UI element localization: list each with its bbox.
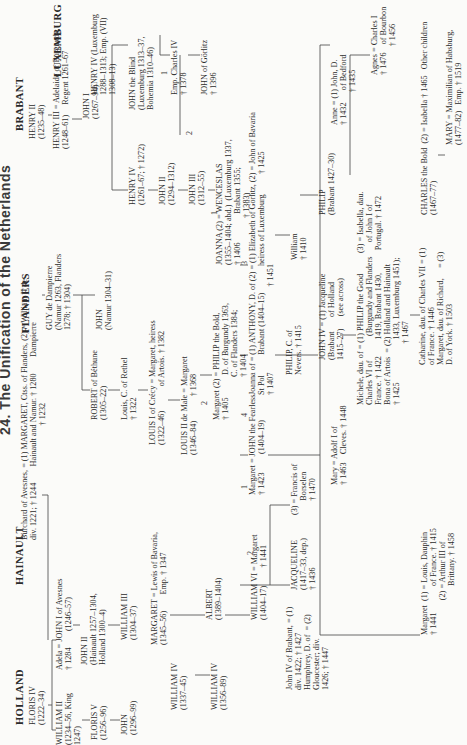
marriage-order-number: 4 — [240, 413, 249, 417]
person-louis1: LOUIS I of Crécy = Margaret, heiress (13… — [148, 320, 166, 445]
person-john3brab: JOHN III (1312–55) — [188, 171, 206, 205]
person-john2brab: JOHN II (1294–1312) — [158, 163, 176, 205]
person-williambrab: William † 1410 — [290, 233, 308, 260]
person-agnes: Agnes = Charles I † 1476 of Bourbon † 14… — [370, 7, 397, 75]
person-adela: Adela = JOHN I of Avesnes † 1284 (1246–5… — [55, 578, 73, 670]
person-michele: Michele, dau. of = (1) PHILIP the Good (… — [356, 191, 410, 405]
person-charlesbold: CHARLES the Bold (2) = Isabella † 1465 O… — [420, 22, 438, 215]
person-floris5: FLORIS V (1256–96) — [90, 704, 108, 740]
person-catharine: Catharine, dau. of Charles VII = (1) of … — [418, 248, 454, 365]
person-william2: WILLIAM II (1234–56, King 1247) — [55, 693, 82, 745]
person-joannastpol: Joanna of = (1) ANTHONY, D. of (2) = (1)… — [248, 112, 275, 395]
person-johnnamur: JOHN (Namur 1304–31) — [95, 271, 113, 330]
person-charles4: Emp. Charles IV † 1378 — [170, 40, 188, 95]
person-burchard: Burchard of Avesnes, = (1) MARGARET, Cts… — [20, 279, 47, 540]
person-guy: GUY de Dampierre (Namur 1263, Flanders 1… — [45, 254, 72, 330]
person-john1brab: JOHN I (1267–94) — [82, 85, 100, 119]
person-mary: MARY = Maximilian of Habsburg, (1477–82)… — [445, 30, 463, 145]
marriage-order-number: 2 — [246, 551, 255, 555]
marriage-order-number: 1 — [240, 485, 249, 489]
person-jacqueline: JACQUELINE (1417–33, dep.) † 1436 — [290, 538, 317, 590]
person-johnblind: JOHN the Blind (Luxemburg 1313–37, Bohem… — [128, 36, 155, 110]
person-robert: ROBERT of Béthune (1305–22) — [90, 350, 108, 420]
person-johniv: JOHN IV = (1) Jacqueline (Brabant of Hol… — [318, 274, 345, 360]
person-louisrethel: Louis, C. of Rethel † 1322 — [120, 357, 138, 420]
person-henry3: HENRY III = Adelaide of Burgundy, (1248–… — [52, 28, 70, 149]
person-marycleves: Mary = Adolf I of † 1463 Cleves. † 1448 — [330, 405, 348, 485]
person-william4a: WILLIAM IV (1337–45) — [170, 663, 188, 710]
person-joanna: JOANNA (2) = WENCESLAS (1355–1404; abd.)… — [215, 139, 251, 265]
person-philipnevers: PHILIP, C. of Nevers. † 1415 — [285, 325, 303, 375]
person-borselen: (3) = Francis of Borselen † 1470 — [290, 464, 317, 515]
person-johnholl: JOHN (1296–99) — [120, 701, 138, 735]
person-henry4brab: HENRY IV (1261–67; † 1272) — [128, 144, 146, 205]
person-philipbrab: PHILIP (Brabant 1427–30) — [318, 153, 336, 215]
person-henry2: HENRY II (1235–48) — [28, 104, 46, 139]
marriage-order-number: 1 — [210, 211, 219, 215]
marriage-order-number: 1 — [160, 71, 169, 75]
person-margaretbav: MARGARET = Lewis of Bavaria, (1345–56) E… — [150, 532, 168, 645]
person-margaretdauphin: Margaret (1) = Louis, Dauphin † 1441 of … — [420, 528, 456, 635]
person-william6: WILLIAM VI = Margaret (1404–17) † 1441 — [250, 535, 268, 620]
person-anne: Anne = (1) John, D. † 1432 of Bedford † … — [330, 55, 357, 126]
house-heading-holland: HOLLAND — [14, 669, 25, 725]
person-william4b: WILLIAM IV (1356–89) — [210, 663, 228, 710]
person-floris4: FLORIS IV (1222–34) — [28, 686, 46, 725]
house-heading-brabant: BRABANT — [14, 77, 25, 131]
marriage-order-number: 3 — [240, 261, 249, 265]
person-louis2: LOUIS II de Male = Margaret (1346–84) † … — [180, 356, 198, 455]
person-william3: WILLIAM III (1304–37) — [120, 593, 138, 640]
marriage-order-number: 2 — [200, 401, 209, 405]
person-johniv_text: John IV of Brabant, = (1) div. 1422; † 1… — [285, 607, 330, 690]
person-johnfearless: Margaret = JOHN the Fearless † 1423 (140… — [248, 395, 266, 495]
person-john2hain: JOHN II (Hainault 1257–1304, Holland 130… — [80, 593, 107, 665]
person-albert: ALBERT (1389–1404) — [205, 578, 223, 620]
person-johngorlitz: JOHN of Görlitz † 1396 — [200, 40, 218, 95]
person-margaret2: Margaret (2) = PHILIP the Bold, † 1405 D… — [212, 303, 248, 420]
marriage-order-number: 2 — [185, 131, 194, 135]
person-henry4lux: HENRY IV (Luxemburg 1288–1313; Emp. (VII… — [90, 14, 117, 95]
